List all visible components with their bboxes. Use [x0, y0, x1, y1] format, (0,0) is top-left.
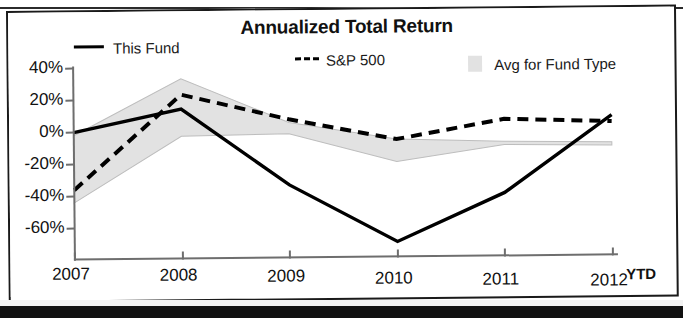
avg-fund-type-band [73, 75, 612, 203]
y-tick-label-5: -60% [3, 218, 65, 239]
scan-bottom-edge [0, 306, 683, 318]
x-tick-2010 [397, 249, 399, 257]
x-tick-label-2012: 2012 [590, 270, 628, 290]
x-tick-label-2011: 2011 [482, 269, 519, 289]
y-tick-2 [66, 132, 74, 134]
y-tick-label-1: 20% [1, 90, 63, 111]
x-tick-2011 [504, 248, 506, 256]
x-tick-2009 [289, 250, 291, 258]
y-tick-1 [65, 100, 73, 102]
ytd-note: YTD [626, 265, 656, 282]
y-tick-4 [66, 196, 74, 198]
y-tick-3 [66, 164, 74, 166]
chart-plot-area: Annualized Total Return This Fund S&P 50… [0, 0, 683, 318]
y-tick-label-2: 0% [2, 122, 64, 143]
y-tick-label-3: -20% [2, 154, 64, 175]
x-tick-label-2008: 2008 [160, 266, 198, 286]
x-tick-2007 [74, 253, 76, 261]
y-tick-5 [67, 228, 75, 230]
x-tick-label-2009: 2009 [267, 267, 305, 287]
y-tick-0 [65, 68, 73, 70]
x-tick-2012 [612, 247, 614, 255]
x-tick-label-2007: 2007 [52, 264, 90, 284]
x-tick-label-2010: 2010 [375, 268, 413, 288]
chart-series-canvas [0, 0, 683, 318]
y-tick-label-4: -40% [2, 186, 64, 207]
y-tick-label-0: 40% [1, 58, 63, 79]
x-tick-2008 [181, 252, 183, 260]
